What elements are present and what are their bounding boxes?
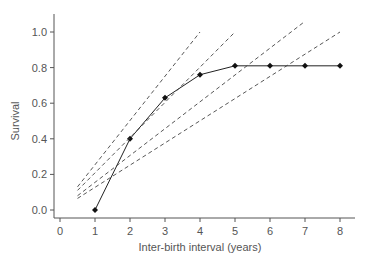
x-tick-label: 6 [267, 225, 273, 237]
x-ticks: 012345678 [57, 218, 343, 237]
diamond-marker [302, 63, 308, 69]
dashed-line-3 [78, 21, 306, 195]
x-tick-label: 3 [162, 225, 168, 237]
x-axis-label: Inter-birth interval (years) [139, 241, 262, 253]
diamond-marker [267, 63, 273, 69]
axes: 0.00.20.40.60.81.0 012345678 Survival In… [9, 14, 355, 253]
x-tick-label: 4 [197, 225, 203, 237]
y-tick-label: 0.6 [32, 97, 47, 109]
diamond-marker [92, 207, 98, 213]
plot-area [78, 21, 344, 213]
x-tick-label: 7 [302, 225, 308, 237]
y-ticks: 0.00.20.40.60.81.0 [32, 26, 54, 216]
dashed-line-1 [78, 32, 201, 187]
dashed-line-2 [78, 32, 236, 190]
y-tick-label: 0.0 [32, 204, 47, 216]
y-axis-label: Survival [9, 101, 21, 140]
diamond-marker [197, 72, 203, 78]
y-tick-label: 0.8 [32, 62, 47, 74]
dashed-line-4 [78, 32, 341, 198]
survival-chart: 0.00.20.40.60.81.0 012345678 Survival In… [0, 0, 374, 265]
x-tick-label: 0 [57, 225, 63, 237]
x-tick-label: 2 [127, 225, 133, 237]
y-tick-label: 1.0 [32, 26, 47, 38]
diamond-marker [337, 63, 343, 69]
y-tick-label: 0.2 [32, 168, 47, 180]
x-tick-label: 1 [92, 225, 98, 237]
x-tick-label: 8 [337, 225, 343, 237]
diamond-marker [232, 63, 238, 69]
y-tick-label: 0.4 [32, 133, 47, 145]
x-tick-label: 5 [232, 225, 238, 237]
